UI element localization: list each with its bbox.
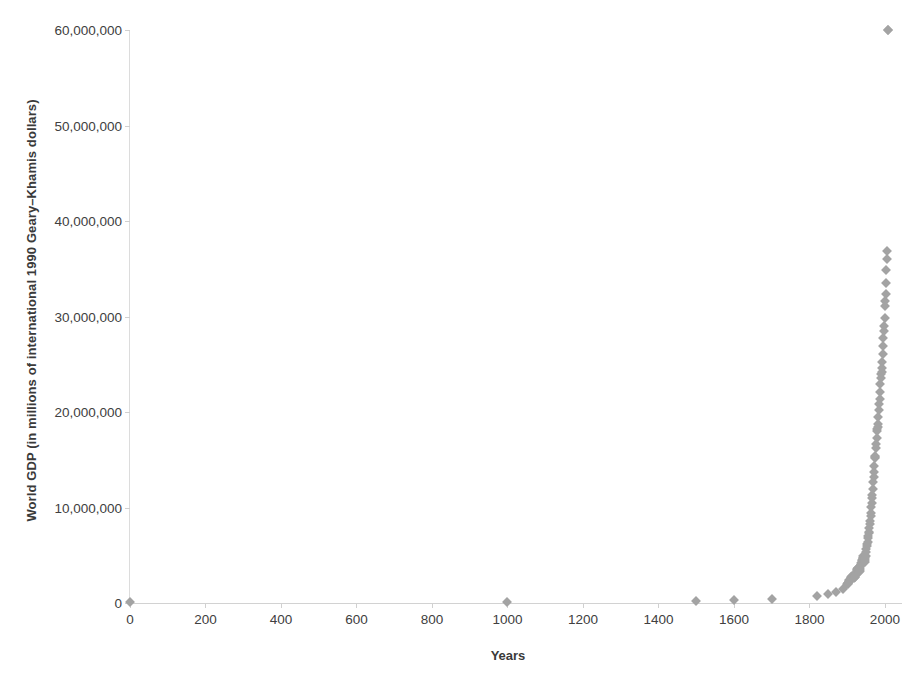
x-axis-tick-label: 1800	[794, 612, 824, 627]
y-axis-tick-label: 0	[2, 596, 122, 611]
x-axis-tick-mark	[809, 604, 810, 608]
data-point-marker	[883, 25, 893, 35]
x-axis-tick-label: 400	[270, 612, 293, 627]
data-point-marker	[767, 595, 777, 605]
data-point-marker	[881, 265, 891, 275]
x-axis-tick-label: 1600	[719, 612, 749, 627]
y-axis-tick-labels: 010,000,00020,000,00030,000,00040,000,00…	[0, 0, 122, 686]
y-axis-tick-label: 50,000,000	[2, 118, 122, 133]
x-axis-tick-mark	[356, 604, 357, 608]
x-axis-title: Years	[130, 648, 886, 663]
y-axis-tick-label: 30,000,000	[2, 309, 122, 324]
data-point-marker	[125, 597, 135, 607]
x-axis-line	[130, 603, 902, 604]
y-axis-tick-label: 60,000,000	[2, 23, 122, 38]
data-point-marker	[880, 313, 890, 323]
x-axis-tick-label: 0	[126, 612, 134, 627]
data-point-marker	[812, 591, 822, 601]
data-point-marker	[502, 597, 512, 607]
x-axis-tick-label: 800	[421, 612, 444, 627]
x-axis-tick-label: 600	[345, 612, 368, 627]
x-axis-tick-mark	[432, 604, 433, 608]
data-point-marker	[882, 246, 892, 256]
x-axis-tick-mark	[205, 604, 206, 608]
x-axis-tick-label: 200	[194, 612, 217, 627]
y-axis-tick-label: 40,000,000	[2, 214, 122, 229]
x-axis-tick-label: 2000	[870, 612, 900, 627]
x-axis-tick-mark	[583, 604, 584, 608]
x-axis-tick-label: 1200	[568, 612, 598, 627]
y-axis-tick-label: 10,000,000	[2, 500, 122, 515]
plot-area	[130, 30, 900, 603]
data-point-marker	[691, 596, 701, 606]
x-axis-tick-label: 1400	[643, 612, 673, 627]
gdp-scatter-chart: World GDP (in millions of international …	[0, 0, 923, 686]
data-point-marker	[881, 278, 891, 288]
x-axis-tick-label: 1000	[492, 612, 522, 627]
x-axis-tick-mark	[281, 604, 282, 608]
y-axis-tick-label: 20,000,000	[2, 405, 122, 420]
x-axis-tick-mark	[885, 604, 886, 608]
x-axis-tick-mark	[658, 604, 659, 608]
